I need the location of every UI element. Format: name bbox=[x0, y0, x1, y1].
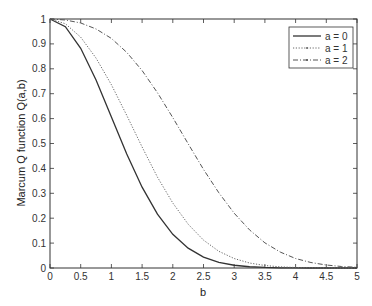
chart: 00.511.522.533.544.5500.10.20.30.40.50.6… bbox=[0, 0, 372, 306]
y-tick-label: 0.7 bbox=[32, 88, 46, 99]
y-tick-label: 0.3 bbox=[32, 188, 46, 199]
x-tick-label: 2 bbox=[170, 271, 176, 282]
y-tick-label: 0 bbox=[40, 263, 46, 274]
y-tick-label: 0.8 bbox=[32, 63, 46, 74]
x-tick-label: 3.5 bbox=[258, 271, 272, 282]
y-tick-label: 0.5 bbox=[32, 138, 46, 149]
x-axis-label: b bbox=[200, 286, 206, 298]
y-tick-label: 0.4 bbox=[32, 163, 46, 174]
y-tick-label: 1 bbox=[40, 14, 46, 25]
y-tick-label: 0.9 bbox=[32, 38, 46, 49]
x-tick-label: 2.5 bbox=[197, 271, 211, 282]
y-tick-label: 0.2 bbox=[32, 213, 46, 224]
legend-label: a = 2 bbox=[325, 55, 348, 66]
x-tick-label: 0.5 bbox=[74, 271, 88, 282]
legend: a = 0a = 1a = 2 bbox=[289, 27, 353, 68]
x-tick-label: 3 bbox=[231, 271, 237, 282]
legend-label: a = 1 bbox=[325, 43, 348, 54]
x-tick-label: 5 bbox=[354, 271, 360, 282]
x-tick-label: 4.5 bbox=[319, 271, 333, 282]
y-tick-label: 0.6 bbox=[32, 113, 46, 124]
x-tick-label: 1 bbox=[109, 271, 115, 282]
x-tick-label: 1.5 bbox=[135, 271, 149, 282]
x-tick-label: 4 bbox=[293, 271, 299, 282]
legend-label: a = 0 bbox=[325, 31, 348, 42]
y-tick-label: 0.1 bbox=[32, 238, 46, 249]
x-tick-label: 0 bbox=[47, 271, 53, 282]
y-axis-label: Marcum Q function Q(a,b) bbox=[15, 79, 27, 206]
